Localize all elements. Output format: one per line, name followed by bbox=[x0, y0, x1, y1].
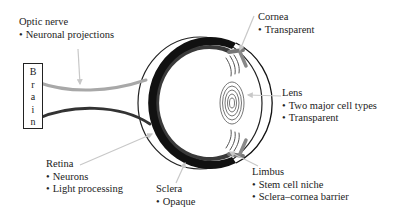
label-limbus: Limbus Stem cell niche Sclera–cornea bar… bbox=[252, 166, 349, 204]
brain-letter: i bbox=[24, 104, 42, 117]
label-bullet: Stem cell niche bbox=[252, 179, 349, 192]
optic-nerve-pointer bbox=[78, 49, 80, 84]
label-bullet: Two major cell types bbox=[282, 100, 377, 113]
brain-letter: B bbox=[24, 66, 42, 79]
limbus-pointer bbox=[230, 152, 258, 166]
label-bullet: Transparent bbox=[282, 112, 377, 125]
cornea-pointer bbox=[240, 16, 254, 50]
optic-nerve-light bbox=[37, 80, 146, 90]
label-optic-nerve: Optic nerve Neuronal projections bbox=[19, 16, 114, 41]
label-bullet: Sclera–cornea barrier bbox=[252, 191, 349, 204]
brain-letter: n bbox=[24, 116, 42, 129]
label-sclera: Sclera Opaque bbox=[156, 183, 195, 208]
label-title: Lens bbox=[282, 87, 377, 100]
label-title: Retina bbox=[46, 158, 123, 171]
label-title: Cornea bbox=[258, 11, 314, 24]
label-bullet: Light processing bbox=[46, 183, 123, 196]
brain-letter: r bbox=[24, 79, 42, 92]
label-lens: Lens Two major cell types Transparent bbox=[282, 87, 377, 125]
label-title: Sclera bbox=[156, 183, 195, 196]
label-bullet: Transparent bbox=[258, 24, 314, 37]
label-cornea: Cornea Transparent bbox=[258, 11, 314, 36]
label-bullet: Neurons bbox=[46, 171, 123, 184]
label-title: Limbus bbox=[252, 166, 349, 179]
label-bullet: Opaque bbox=[156, 196, 195, 209]
label-bullet: Neuronal projections bbox=[19, 29, 114, 42]
brain-box: B r a i n bbox=[23, 63, 43, 129]
optic-nerve-dark bbox=[37, 108, 150, 124]
label-retina: Retina Neurons Light processing bbox=[46, 158, 123, 196]
brain-letter: a bbox=[24, 91, 42, 104]
label-title: Optic nerve bbox=[19, 16, 114, 29]
